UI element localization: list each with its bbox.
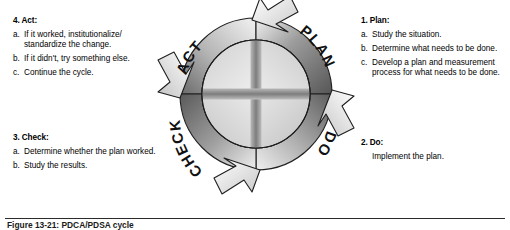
- section-plan-items: a. Study the situation. b. Determine wha…: [361, 30, 507, 79]
- list-item-label: Study the results.: [24, 161, 165, 172]
- list-item-marker: a.: [361, 30, 368, 41]
- list-item-label: Determine whether the plan worked.: [24, 147, 165, 158]
- list-item: c. Continue the cycle.: [13, 68, 165, 79]
- section-check-items: a. Determine whether the plan worked. b.…: [13, 147, 165, 172]
- list-item-marker: c.: [13, 68, 19, 79]
- list-item-marker: b.: [13, 161, 20, 172]
- list-item-label: Determine what needs to be done.: [372, 44, 507, 55]
- list-item: a. If it worked, institutionalize/ stand…: [13, 30, 165, 51]
- section-act-items: a. If it worked, institutionalize/ stand…: [13, 30, 165, 79]
- figure-caption-text: Figure 13-21: PDCA/PDSA cycle: [7, 221, 307, 230]
- list-item-marker: b.: [361, 44, 368, 55]
- list-item-label: Study the situation.: [372, 30, 507, 41]
- section-check: 3. Check: a. Determine whether the plan …: [13, 133, 165, 171]
- list-item: b. Study the results.: [13, 161, 165, 172]
- list-item-label: Develop a plan and measurement process f…: [372, 58, 507, 79]
- list-item-marker: c.: [361, 58, 367, 69]
- wheel-inner-disc: [202, 40, 310, 148]
- figure-caption: Figure 13-21: PDCA/PDSA cycle: [7, 221, 307, 230]
- list-item: c. Develop a plan and measurement proces…: [361, 58, 507, 79]
- section-do-body: Implement the plan.: [361, 152, 507, 163]
- list-item-label: Continue the cycle.: [24, 68, 165, 79]
- list-item: b. If it didn't, try something else.: [13, 54, 165, 65]
- list-item-label: If it worked, institutionalize/ standard…: [24, 30, 165, 51]
- list-item: a. Determine whether the plan worked.: [13, 147, 165, 158]
- list-item: b. Determine what needs to be done.: [361, 44, 507, 55]
- section-act-title: 4. Act:: [13, 16, 165, 27]
- list-item-marker: b.: [13, 54, 20, 65]
- pdca-figure: 4. Act: a. If it worked, institutionaliz…: [0, 0, 510, 230]
- section-act: 4. Act: a. If it worked, institutionaliz…: [13, 16, 165, 79]
- section-do-title: 2. Do:: [361, 138, 507, 149]
- list-item-label: If it didn't, try something else.: [24, 54, 165, 65]
- list-item: a. Study the situation.: [361, 30, 507, 41]
- section-check-title: 3. Check:: [13, 133, 165, 144]
- caption-divider: [5, 218, 505, 219]
- section-plan-title: 1. Plan:: [361, 16, 507, 27]
- list-item-marker: a.: [13, 147, 20, 158]
- section-do: 2. Do: Implement the plan.: [361, 138, 507, 162]
- list-item-marker: a.: [13, 30, 20, 41]
- section-plan: 1. Plan: a. Study the situation. b. Dete…: [361, 16, 507, 79]
- pdca-cycle-wheel: ACT PLAN DO CHECK: [156, 0, 356, 216]
